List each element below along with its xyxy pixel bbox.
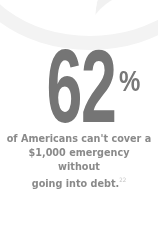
stat-caption: of Americans can't cover a $1,000 emerge… — [6, 131, 151, 190]
stat-value: 62 — [47, 38, 116, 134]
stat-unit: % — [119, 66, 140, 96]
caption-line-2: $1,000 emergency without — [6, 145, 151, 173]
caption-line-3-text: going into debt. — [32, 177, 120, 189]
footnote-reference: 22 — [119, 176, 126, 183]
caption-line-3: going into debt.22 — [6, 173, 151, 190]
caption-line-1: of Americans can't cover a — [6, 131, 151, 145]
